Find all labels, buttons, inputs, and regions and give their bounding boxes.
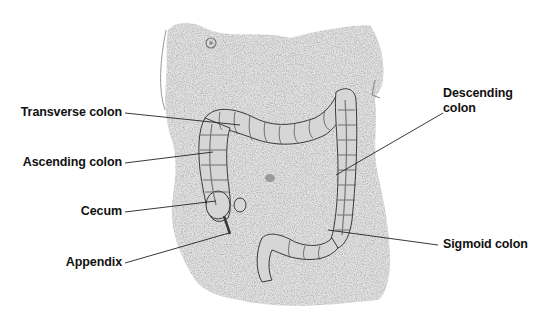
label-sigmoid-colon: Sigmoid colon — [443, 237, 528, 252]
label-descending-line2: colon — [443, 101, 513, 116]
label-cecum: Cecum — [81, 204, 122, 219]
label-descending-line1: Descending — [443, 86, 513, 101]
label-ascending-colon: Ascending colon — [23, 155, 122, 170]
cecum-shape — [206, 191, 230, 219]
label-appendix: Appendix — [66, 255, 122, 270]
colon-anatomy-figure: Transverse colon Ascending colon Cecum A… — [0, 0, 549, 315]
label-descending-colon: Descending colon — [443, 86, 513, 116]
label-transverse-colon: Transverse colon — [21, 105, 122, 120]
navel-mark — [265, 174, 275, 182]
